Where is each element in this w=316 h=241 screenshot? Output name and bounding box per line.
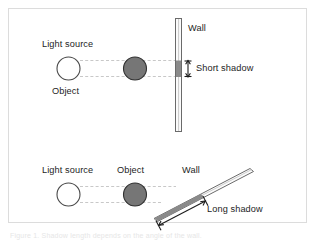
- label-object-top: Object: [52, 87, 79, 96]
- label-long-shadow: Long shadow: [207, 205, 263, 214]
- label-wall-top: Wall: [188, 24, 206, 33]
- label-short-shadow: Short shadow: [196, 64, 253, 73]
- label-wall-bottom: Wall: [182, 166, 200, 175]
- label-light-source-top: Light source: [42, 40, 93, 49]
- label-object-bottom: Object: [117, 166, 144, 175]
- figure-root: Light source Object Wall Short shadow Li…: [0, 0, 316, 241]
- label-light-source-bottom: Light source: [42, 166, 93, 175]
- figure-caption: Figure 1. Shadow length depends on the a…: [10, 231, 250, 240]
